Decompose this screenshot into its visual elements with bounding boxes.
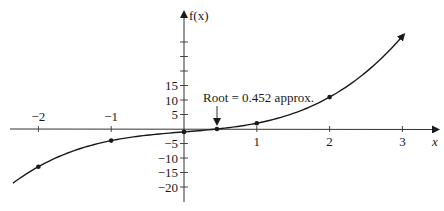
function-curve (13, 35, 404, 184)
x-tick-label: −1 (104, 109, 118, 124)
y-axis-label: f(x) (189, 8, 209, 23)
x-tick-label: 1 (254, 134, 261, 149)
function-plot: −2−1123 15105−5−10−15−20 f(x) x Root = 0… (0, 0, 444, 211)
x-tick-label: 3 (399, 134, 406, 149)
x-axis (10, 129, 438, 130)
y-tick-label: 5 (172, 107, 179, 122)
y-tick-label: −10 (158, 151, 178, 166)
data-point (254, 121, 259, 126)
y-tick-label: −5 (164, 136, 178, 151)
data-point (215, 127, 220, 132)
data-point (109, 138, 114, 143)
y-tick-label: 15 (165, 78, 178, 93)
data-point (182, 130, 187, 135)
y-ticks: 15105−5−10−15−20 (158, 42, 188, 195)
root-annotation: Root = 0.452 approx. (203, 90, 314, 105)
x-tick-label: −2 (31, 109, 45, 124)
data-point (327, 95, 332, 100)
x-tick-label: 2 (326, 134, 333, 149)
y-tick-label: −15 (158, 165, 178, 180)
y-tick-label: −20 (158, 180, 178, 195)
x-axis-label: x (431, 134, 438, 149)
data-point (36, 164, 41, 169)
y-tick-label: 10 (165, 93, 178, 108)
